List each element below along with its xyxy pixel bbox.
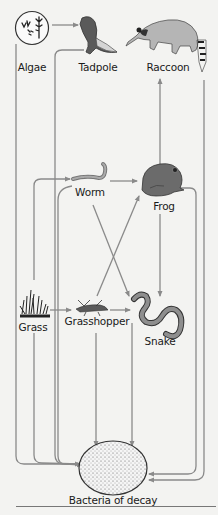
snake-icon bbox=[134, 295, 181, 337]
label-worm: Worm bbox=[75, 186, 105, 198]
label-grass: Grass bbox=[19, 321, 48, 333]
worm-icon bbox=[73, 164, 105, 179]
arrow-worm-snake bbox=[93, 205, 129, 296]
arrow-frog-bacteria bbox=[149, 188, 196, 474]
arrow-algae-bacteria bbox=[16, 44, 80, 464]
arrow-grass-bacteria bbox=[34, 333, 80, 464]
arrows bbox=[16, 25, 204, 480]
food-web-diagram bbox=[0, 0, 218, 515]
bacteria-icon bbox=[79, 441, 147, 495]
grasshopper-icon bbox=[76, 300, 108, 316]
label-bacteria: Bacteria of decay bbox=[69, 494, 158, 506]
label-frog: Frog bbox=[153, 200, 175, 212]
algae-icon bbox=[16, 12, 49, 45]
arrow-tadpole-bacteria bbox=[55, 50, 84, 464]
grass-icon bbox=[20, 290, 50, 316]
arrow-grasshopper-frog bbox=[97, 196, 139, 296]
label-algae: Algae bbox=[18, 61, 47, 73]
label-raccoon: Raccoon bbox=[146, 61, 189, 73]
tadpole-icon bbox=[80, 17, 117, 54]
arrow-grass-worm bbox=[34, 179, 70, 280]
label-snake: Snake bbox=[145, 335, 176, 347]
bottom-divider bbox=[16, 506, 216, 507]
label-grasshopper: Grasshopper bbox=[65, 315, 130, 327]
label-tadpole: Tadpole bbox=[79, 61, 118, 73]
frog-icon bbox=[142, 164, 184, 196]
